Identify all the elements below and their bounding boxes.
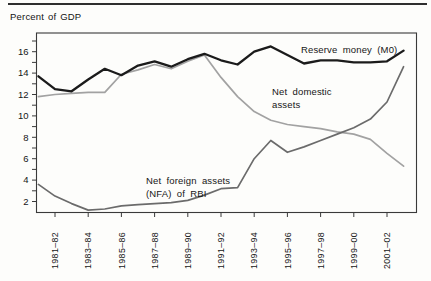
y-tick-label: 4 xyxy=(23,174,28,185)
y-tick-label: 8 xyxy=(23,132,28,143)
y-tick-label: 6 xyxy=(23,153,28,164)
x-tick-label: 1995–96 xyxy=(283,232,293,269)
label-net-domestic-2: assets xyxy=(272,99,300,110)
x-tick-label: 1983–84 xyxy=(83,232,93,269)
x-tick-label: 1987–88 xyxy=(150,232,160,269)
y-tick-label: 12 xyxy=(18,89,29,100)
x-tick-label: 1999–00 xyxy=(349,232,359,269)
y-tick-label: 16 xyxy=(18,46,29,57)
x-tick-label: 1981–82 xyxy=(50,232,60,269)
label-net-domestic-1: Net domestic xyxy=(272,86,332,97)
label-nfa-1: Net foreign assets xyxy=(146,175,230,186)
x-tick-label: 1989–90 xyxy=(183,232,193,269)
x-tick-label: 2001–02 xyxy=(382,232,392,269)
net-foreign-assets-line xyxy=(38,67,403,210)
net-domestic-assets-line xyxy=(38,55,403,166)
label-reserve-money: Reserve money (M0) xyxy=(301,44,397,55)
x-tick-label: 1997–98 xyxy=(316,232,326,269)
y-tick-label: 10 xyxy=(18,110,29,121)
line-chart: 2468101214161981–821983–841985–861987–88… xyxy=(0,0,431,281)
x-tick-label: 1991–92 xyxy=(216,232,226,269)
y-tick-label: 2 xyxy=(23,196,28,207)
label-nfa-2: (NFA) of RBI xyxy=(146,188,207,199)
x-tick-label: 1985–86 xyxy=(117,232,127,269)
x-tick-label: 1993–94 xyxy=(249,232,259,269)
y-tick-label: 14 xyxy=(18,67,29,78)
figure-page: Percent of GDP 2468101214161981–821983–8… xyxy=(0,0,431,281)
